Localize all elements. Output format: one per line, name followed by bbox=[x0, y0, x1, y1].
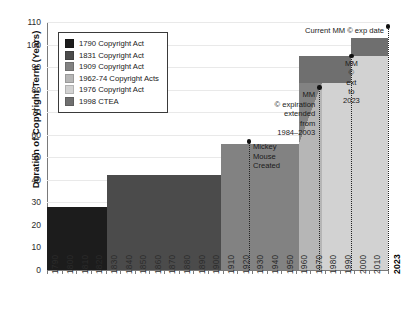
x-tick-label: 1910 bbox=[226, 255, 236, 274]
x-tick-mark bbox=[281, 270, 282, 274]
chart-legend: 1790 Copyright Act1831 Copyright Act1909… bbox=[58, 32, 168, 113]
y-tick-label: 50 bbox=[17, 153, 41, 161]
x-tick-mark bbox=[193, 270, 194, 274]
x-tick-label: 2023 bbox=[392, 254, 402, 274]
y-tick-label: 80 bbox=[17, 86, 41, 94]
annotation-leader-line bbox=[249, 141, 250, 270]
x-tick-label: 1920 bbox=[241, 255, 251, 274]
annotation-marker-dot bbox=[317, 85, 322, 90]
x-tick-mark bbox=[135, 270, 136, 274]
y-tick-label: 0 bbox=[17, 266, 41, 274]
legend-swatch-icon bbox=[65, 51, 74, 60]
x-tick-label: 1860 bbox=[153, 255, 163, 274]
y-tick-label: 90 bbox=[17, 63, 41, 71]
x-tick-label: 1890 bbox=[197, 255, 207, 274]
annotation-marker-dot bbox=[349, 54, 354, 59]
x-tick-label: 1800 bbox=[65, 255, 75, 274]
annotation-mm-ext-to-2023: MM © ext to 2023 bbox=[341, 59, 361, 106]
x-tick-label: 1850 bbox=[138, 255, 148, 274]
y-tick-label: 70 bbox=[17, 108, 41, 116]
x-tick-label: 2010 bbox=[372, 255, 382, 274]
x-tick-mark bbox=[62, 270, 63, 274]
legend-item: 1998 CTEA bbox=[65, 96, 159, 108]
x-tick-mark bbox=[340, 270, 341, 274]
x-tick-label: 1790 bbox=[50, 255, 60, 274]
x-tick-label: 1930 bbox=[255, 255, 265, 274]
bar-1998-ctea-upper bbox=[351, 38, 388, 56]
x-tick-label: 1900 bbox=[211, 255, 221, 274]
y-tick-label: 20 bbox=[17, 221, 41, 229]
x-tick-mark bbox=[91, 270, 92, 274]
x-tick-label: 1990 bbox=[343, 255, 353, 274]
legend-swatch-icon bbox=[65, 39, 74, 48]
y-tick-label: 100 bbox=[17, 41, 41, 49]
x-tick-label: 1970 bbox=[314, 255, 324, 274]
legend-item: 1831 Copyright Act bbox=[65, 50, 159, 62]
y-tick-label: 110 bbox=[17, 18, 41, 26]
x-tick-label: 1880 bbox=[182, 255, 192, 274]
legend-item: 1790 Copyright Act bbox=[65, 38, 159, 50]
annotation-leader-line bbox=[319, 87, 320, 270]
legend-swatch-icon bbox=[65, 85, 74, 94]
x-tick-mark bbox=[47, 270, 48, 274]
x-tick-mark bbox=[149, 270, 150, 274]
y-tick-label: 60 bbox=[17, 131, 41, 139]
x-tick-mark bbox=[296, 270, 297, 274]
x-tick-mark bbox=[164, 270, 165, 274]
x-tick-mark bbox=[76, 270, 77, 274]
x-tick-label: 1820 bbox=[94, 255, 104, 274]
x-tick-label: 1840 bbox=[124, 255, 134, 274]
annotation-leader-line bbox=[388, 27, 389, 270]
x-tick-label: 1870 bbox=[167, 255, 177, 274]
legend-swatch-icon bbox=[65, 97, 74, 106]
legend-item-label: 1998 CTEA bbox=[79, 97, 119, 106]
annotation-marker-dot bbox=[247, 139, 252, 144]
x-tick-mark bbox=[310, 270, 311, 274]
legend-item: 1909 Copyright Act bbox=[65, 61, 159, 73]
annotation-marker-dot bbox=[386, 24, 391, 29]
gridline bbox=[47, 22, 388, 23]
legend-item-label: 1909 Copyright Act bbox=[79, 62, 144, 71]
x-tick-label: 1830 bbox=[109, 255, 119, 274]
x-tick-mark bbox=[223, 270, 224, 274]
legend-item: 1962-74 Copyright Acts bbox=[65, 73, 159, 85]
x-tick-mark bbox=[106, 270, 107, 274]
x-tick-mark bbox=[237, 270, 238, 274]
legend-swatch-icon bbox=[65, 74, 74, 83]
x-tick-label: 1940 bbox=[270, 255, 280, 274]
x-tick-mark bbox=[208, 270, 209, 274]
x-tick-mark bbox=[120, 270, 121, 274]
x-tick-mark bbox=[354, 270, 355, 274]
legend-item-label: 1790 Copyright Act bbox=[79, 39, 144, 48]
x-tick-label: 2000 bbox=[358, 255, 368, 274]
x-tick-label: 1980 bbox=[328, 255, 338, 274]
y-tick-label: 10 bbox=[17, 243, 41, 251]
legend-swatch-icon bbox=[65, 62, 74, 71]
annotation-current-mm-exp-date: Current MM © exp date bbox=[274, 26, 384, 35]
x-tick-mark bbox=[267, 270, 268, 274]
x-tick-mark bbox=[252, 270, 253, 274]
x-tick-label: 1810 bbox=[80, 255, 90, 274]
legend-item-label: 1831 Copyright Act bbox=[79, 51, 144, 60]
x-tick-label: 1950 bbox=[285, 255, 295, 274]
y-axis-ticks: 0102030405060708090100110 bbox=[9, 22, 41, 270]
x-tick-label: 1960 bbox=[299, 255, 309, 274]
x-tick-mark bbox=[179, 270, 180, 274]
x-tick-mark bbox=[325, 270, 326, 274]
annotation-mm-expiration-extended: MM © expiration extended from 1984–2003 bbox=[237, 90, 315, 137]
x-tick-mark bbox=[369, 270, 370, 274]
annotation-mickey-mouse-created: Mickey Mouse Created bbox=[253, 142, 299, 170]
legend-item-label: 1962-74 Copyright Acts bbox=[79, 74, 159, 83]
copyright-term-chart: Duration of Copyright Term (Years) 01020… bbox=[0, 0, 404, 319]
legend-item-label: 1976 Copyright Act bbox=[79, 85, 144, 94]
y-tick-label: 40 bbox=[17, 176, 41, 184]
legend-item: 1976 Copyright Act bbox=[65, 84, 159, 96]
y-tick-label: 30 bbox=[17, 198, 41, 206]
x-tick-mark bbox=[388, 270, 389, 274]
